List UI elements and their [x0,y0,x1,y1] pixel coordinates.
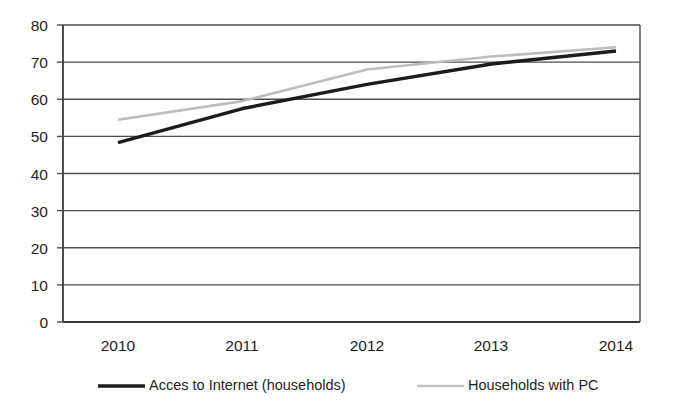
y-tick-label-20: 20 [31,240,49,257]
y-tick-label-10: 10 [31,277,49,294]
y-tick-label-60: 60 [31,91,49,108]
chart-legend: Acces to Internet (households) Household… [98,377,599,393]
y-axis-labels: 80 70 60 50 40 30 20 10 0 [31,17,49,331]
y-tick-label-40: 40 [31,166,49,183]
line-chart: 80 70 60 50 40 30 20 10 0 2010 2011 2012… [0,0,696,416]
y-tick-label-50: 50 [31,128,49,145]
legend-label-acces-to-internet: Acces to Internet (households) [149,377,346,393]
x-tick-label-2010: 2010 [101,337,136,354]
x-tick-label-2014: 2014 [599,337,634,354]
x-tick-label-2012: 2012 [350,337,384,354]
x-tick-label-2013: 2013 [474,337,508,354]
x-axis-labels: 2010 2011 2012 2013 2014 [101,337,634,354]
x-tick-label-2011: 2011 [225,337,258,354]
y-tick-label-80: 80 [31,17,49,34]
y-tick-label-70: 70 [31,54,49,71]
y-tick-label-0: 0 [39,314,48,331]
y-tick-label-30: 30 [31,203,49,220]
chart-canvas: 80 70 60 50 40 30 20 10 0 2010 2011 2012… [0,0,696,416]
legend-label-households-with-pc: Households with PC [468,377,599,393]
